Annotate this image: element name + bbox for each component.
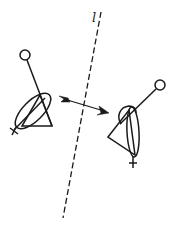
mirror-line-label: l bbox=[92, 10, 96, 25]
cross-foot-icon bbox=[129, 156, 137, 168]
triangle-body bbox=[108, 110, 135, 155]
transformation-arrow bbox=[59, 96, 109, 115]
mirror-line bbox=[63, 12, 101, 218]
reflected-figure bbox=[108, 80, 165, 168]
original-figure bbox=[10, 50, 57, 135]
head-circle-icon bbox=[155, 80, 165, 90]
head-circle-icon bbox=[20, 50, 30, 60]
reflection-diagram: l bbox=[0, 0, 169, 229]
